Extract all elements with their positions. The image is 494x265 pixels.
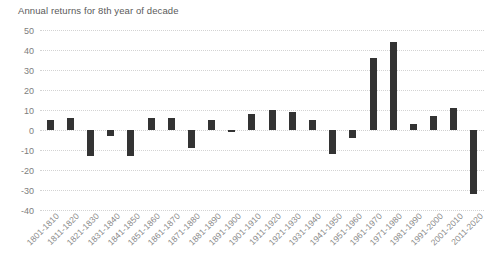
bar [309, 120, 316, 130]
y-axis-tick-label: -40 [21, 206, 34, 216]
y-axis-tick-label: 20 [24, 86, 34, 96]
bar [107, 130, 114, 136]
gridline: 30 [40, 70, 484, 71]
y-axis-tick-label: 30 [24, 66, 34, 76]
chart-title: Annual returns for 8th year of decade [18, 5, 179, 16]
gridline: -30 [40, 190, 484, 191]
y-axis-tick-label: -10 [21, 146, 34, 156]
bar [410, 124, 417, 130]
bar [450, 108, 457, 130]
y-axis-tick-label: -20 [21, 166, 34, 176]
bar [148, 118, 155, 130]
bar [329, 130, 336, 154]
bar [127, 130, 134, 156]
bar [188, 130, 195, 148]
bar [289, 112, 296, 130]
bar [208, 120, 215, 130]
gridline: 40 [40, 50, 484, 51]
gridline: 20 [40, 90, 484, 91]
gridline: -20 [40, 170, 484, 171]
bar [248, 114, 255, 130]
y-axis-tick-label: -30 [21, 186, 34, 196]
gridline: 10 [40, 110, 484, 111]
y-axis-tick-label: 0 [29, 126, 34, 136]
bar [430, 116, 437, 130]
bar [349, 130, 356, 138]
plot-area: 50403020100-10-20-30-40 [40, 30, 484, 210]
y-axis-tick-label: 10 [24, 106, 34, 116]
y-axis-tick-label: 50 [24, 26, 34, 36]
bar [228, 130, 235, 132]
bar [470, 130, 477, 194]
chart-container: Annual returns for 8th year of decade 50… [0, 0, 494, 265]
x-axis-labels: 1801-18101811-18201821-18301831-18401841… [40, 211, 484, 265]
bar [67, 118, 74, 130]
gridline: -10 [40, 150, 484, 151]
bar [47, 120, 54, 130]
bar [168, 118, 175, 130]
bar [370, 58, 377, 130]
bar [390, 42, 397, 130]
gridline: 50 [40, 30, 484, 31]
bar [269, 110, 276, 130]
y-axis-tick-label: 40 [24, 46, 34, 56]
bar [87, 130, 94, 156]
